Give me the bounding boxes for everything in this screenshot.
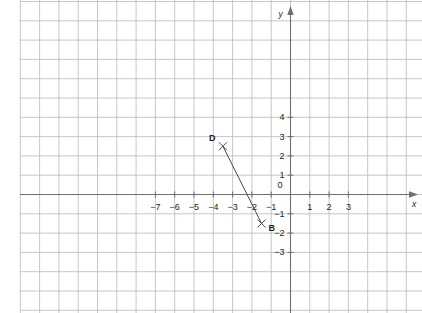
x-axis-label: x [412,200,416,209]
y-tick-label: 2 [279,151,284,160]
coordinate-grid-plot: −7−6−5−4−3−2−1123−3−2−112340xyDB [0,0,422,313]
y-tick-label: −3 [274,248,284,257]
y-tick-label: −1 [274,209,284,218]
y-tick-label: −2 [274,229,284,238]
grid-lines [20,0,422,313]
x-tick-label: −4 [208,203,218,212]
y-tick-label: 4 [279,113,284,122]
y-tick-label: 1 [279,171,284,180]
segment-DB [223,146,262,223]
origin-label: 0 [278,181,283,190]
point-label-B: B [269,224,276,233]
x-tick-label: −5 [189,203,199,212]
x-tick-label: −6 [170,203,180,212]
x-tick-label: −3 [227,203,237,212]
x-tick-label: 3 [346,203,351,212]
x-axis-arrow [409,191,418,197]
point-label-D: D [209,134,216,143]
point-marker-D [219,142,227,150]
x-tick-label: 2 [327,203,332,212]
plot-canvas [0,0,422,313]
x-tick-label: −2 [247,203,257,212]
y-axis-arrow [287,6,293,15]
x-tick-label: 1 [307,203,312,212]
x-tick-label: −7 [150,203,160,212]
y-tick-label: 3 [279,132,284,141]
y-axis-label: y [279,10,283,19]
point-marker-B [258,219,266,227]
